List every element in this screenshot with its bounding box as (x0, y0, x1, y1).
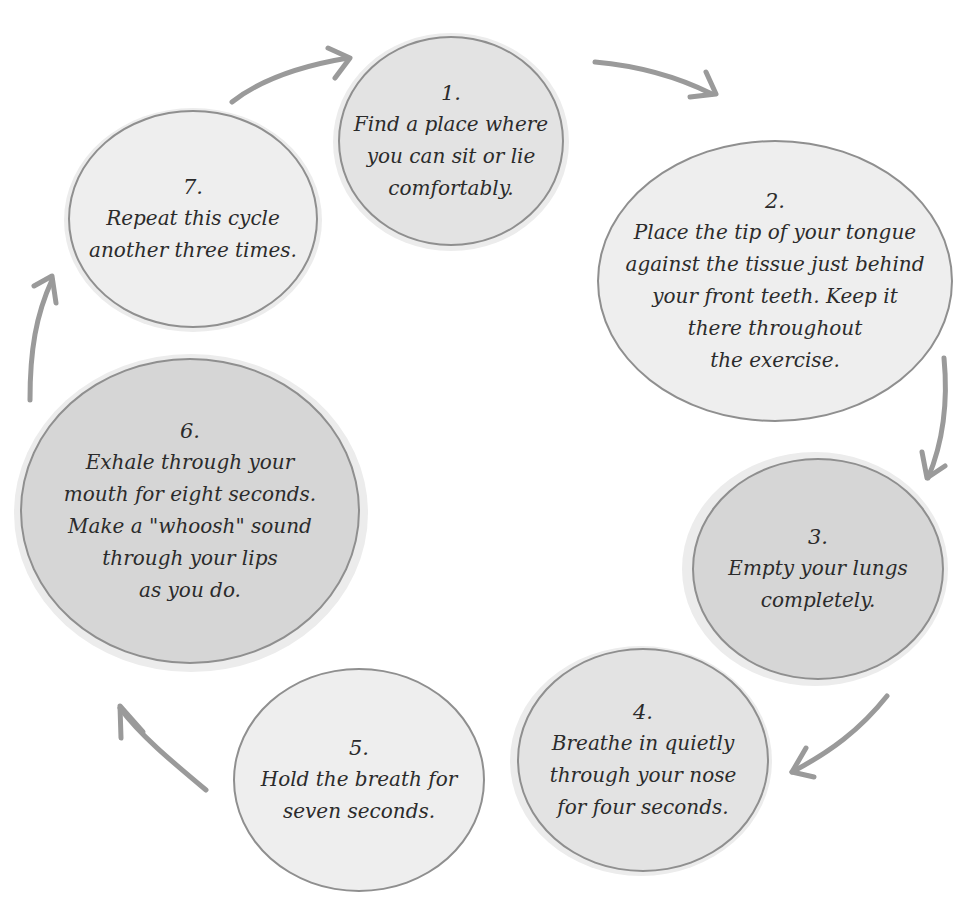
step-4-text: Breathe in quietly through your nose for… (550, 727, 737, 823)
curved-arrow-icon (120, 706, 206, 790)
step-5-text: Hold the breath for seven seconds. (261, 763, 458, 827)
step-3-text: Empty your lungs completely. (728, 552, 907, 616)
curved-arrow-icon (922, 358, 945, 478)
step-1-number: 1. (441, 78, 461, 108)
step-2-text: Place the tip of your tongue against the… (625, 216, 924, 376)
step-1-text: Find a place where you can sit or lie co… (354, 108, 548, 204)
step-3-number: 3. (808, 522, 828, 552)
step-4-bubble: 4. Breathe in quietly through your nose … (517, 648, 769, 872)
breathing-cycle-diagram: 1. Find a place where you can sit or lie… (0, 0, 969, 906)
step-6-text: Exhale through your mouth for eight seco… (64, 446, 316, 606)
curved-arrow-icon (232, 48, 350, 102)
step-5-number: 5. (349, 733, 369, 763)
step-3-bubble: 3. Empty your lungs completely. (692, 458, 944, 680)
step-1-bubble: 1. Find a place where you can sit or lie… (338, 36, 564, 246)
curved-arrow-icon (792, 696, 887, 777)
step-7-bubble: 7. Repeat this cycle another three times… (68, 110, 318, 328)
step-4-number: 4. (633, 697, 653, 727)
step-7-number: 7. (183, 172, 203, 202)
step-7-text: Repeat this cycle another three times. (89, 202, 297, 266)
step-2-bubble: 2. Place the tip of your tongue against … (597, 140, 953, 422)
step-5-bubble: 5. Hold the breath for seven seconds. (233, 668, 485, 892)
curved-arrow-icon (30, 276, 56, 400)
step-6-number: 6. (180, 416, 200, 446)
step-6-bubble: 6. Exhale through your mouth for eight s… (20, 358, 360, 664)
curved-arrow-icon (595, 62, 716, 97)
step-2-number: 2. (765, 186, 785, 216)
